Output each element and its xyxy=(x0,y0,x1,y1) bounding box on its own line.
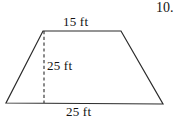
figure-canvas: 15 ft 25 ft 25 ft 10. xyxy=(0,0,186,127)
top-side-length-label: 15 ft xyxy=(63,15,88,28)
problem-number-label: 10. xyxy=(156,1,174,15)
trapezoid-outline xyxy=(6,31,163,104)
trapezoid-figure xyxy=(0,0,186,127)
height-length-label: 25 ft xyxy=(47,59,72,72)
bottom-side-length-label: 25 ft xyxy=(66,105,91,118)
